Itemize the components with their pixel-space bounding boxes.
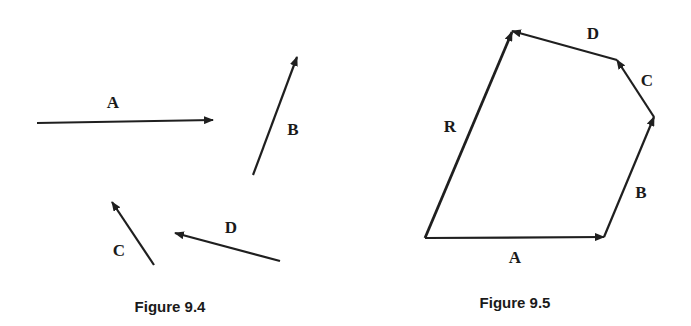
figure-9-5: A B C D R Figure 9.5 (425, 24, 654, 311)
vector-label-a: A (107, 93, 120, 112)
vector-label-b: B (287, 120, 298, 139)
vector-label-c: C (113, 241, 125, 260)
arrow-icon (37, 120, 213, 123)
arrow-icon (512, 31, 617, 60)
arrow-icon (425, 237, 604, 238)
vector-label-b: B (635, 183, 646, 202)
vector-label-r: R (444, 117, 457, 136)
arrow-icon (604, 117, 654, 237)
figure-caption: Figure 9.4 (135, 298, 207, 315)
vector-r-resultant: R (425, 32, 512, 238)
arrow-icon (425, 32, 512, 238)
vector-label-c: C (641, 71, 653, 90)
vector-a: A (37, 93, 213, 123)
vector-c: C (617, 60, 654, 117)
vector-label-d: D (225, 218, 237, 237)
vector-d: D (175, 218, 280, 261)
vector-label-a: A (509, 248, 522, 267)
vector-a: A (425, 237, 604, 267)
arrow-icon (175, 233, 280, 261)
vector-b: B (253, 57, 299, 175)
vector-diagrams: A B C D Figure 9.4 A B C (0, 0, 691, 326)
figure-caption: Figure 9.5 (480, 294, 551, 311)
vector-c: C (112, 202, 154, 265)
vector-label-d: D (587, 24, 599, 43)
figure-9-4: A B C D Figure 9.4 (37, 57, 299, 315)
arrow-icon (253, 57, 297, 175)
vector-b: B (604, 117, 654, 237)
vector-d: D (512, 24, 617, 60)
